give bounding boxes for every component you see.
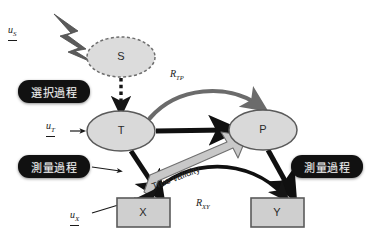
correlation-rxy-sub: XY bbox=[202, 203, 210, 210]
node-y bbox=[251, 198, 304, 227]
diagram-vector-layer bbox=[0, 0, 379, 238]
error-term-ut: uT bbox=[46, 120, 55, 137]
pointer-measurement-left bbox=[92, 167, 120, 171]
node-p bbox=[229, 110, 297, 150]
pill-measurement-process-left: 測量過程 bbox=[18, 155, 90, 178]
error-term-ut-sub: T bbox=[51, 126, 55, 134]
node-s bbox=[87, 37, 155, 77]
error-term-us-sub: S bbox=[13, 30, 17, 38]
error-term-ux: uX bbox=[70, 209, 79, 226]
pill-measurement-process-right: 測量過程 bbox=[291, 155, 363, 178]
error-term-ux-sub: X bbox=[75, 215, 79, 223]
diagram-canvas: S T P X Y uS uT uX RTP RXY 選択過程 測量過程 測量過… bbox=[0, 0, 379, 238]
correlation-label-rtp: RTP bbox=[170, 68, 184, 81]
node-x bbox=[117, 198, 170, 227]
node-t bbox=[87, 111, 155, 151]
correlation-label-rxy: RXY bbox=[196, 197, 210, 210]
correlation-rtp-sub: TP bbox=[176, 74, 184, 81]
error-term-us: uS bbox=[8, 24, 17, 41]
edge-t-to-p bbox=[156, 130, 225, 131]
pill-selection-process: 選択過程 bbox=[18, 80, 90, 103]
